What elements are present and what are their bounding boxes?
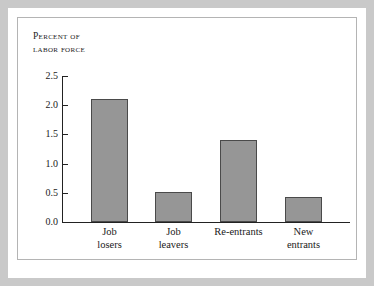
y-tick-label-1: 0.5 bbox=[28, 188, 58, 198]
plot-area: 0.0 0.5 1.0 1.5 2.0 2.5 Job losers Job l… bbox=[0, 0, 374, 286]
bar-new-entrants bbox=[285, 197, 322, 222]
chart-figure: Percent of labor force 0.0 0.5 1.0 1.5 2… bbox=[0, 0, 374, 286]
y-tick-label-3: 1.5 bbox=[28, 129, 58, 139]
y-tick-label-4: 2.0 bbox=[28, 100, 58, 110]
bar-re-entrants bbox=[220, 140, 257, 222]
x-label-new-entrants: New entrants bbox=[264, 226, 344, 251]
y-tick-2 bbox=[62, 164, 68, 165]
y-tick-1 bbox=[62, 193, 68, 194]
bar-job-leavers bbox=[155, 192, 192, 222]
y-axis-line bbox=[62, 76, 63, 222]
y-tick-label-0: 0.0 bbox=[28, 217, 58, 227]
y-tick-4 bbox=[62, 105, 68, 106]
y-tick-5 bbox=[62, 76, 68, 77]
y-tick-3 bbox=[62, 134, 68, 135]
y-tick-label-5: 2.5 bbox=[28, 71, 58, 81]
y-tick-label-2: 1.0 bbox=[28, 159, 58, 169]
y-tick-0 bbox=[62, 222, 68, 223]
x-axis-line bbox=[62, 222, 350, 223]
bar-job-losers bbox=[91, 99, 128, 222]
